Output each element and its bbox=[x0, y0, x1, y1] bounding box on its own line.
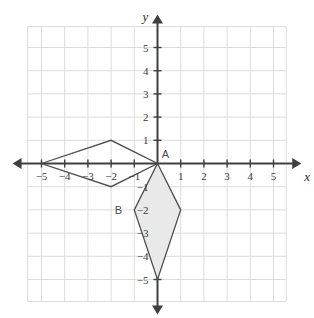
y-tick-label: 4 bbox=[143, 65, 149, 77]
y-tick-label: −5 bbox=[137, 274, 149, 286]
y-tick-label: −2 bbox=[137, 204, 149, 216]
x-axis-arrow-right bbox=[292, 158, 301, 169]
y-tick-label: −1 bbox=[137, 181, 149, 193]
y-tick-label: 2 bbox=[143, 111, 149, 123]
x-tick-label: −4 bbox=[59, 170, 71, 182]
y-axis-arrow-top bbox=[152, 15, 163, 24]
y-tick-label: 1 bbox=[143, 134, 149, 146]
x-tick-label: 4 bbox=[248, 170, 254, 182]
x-tick-label: −5 bbox=[36, 170, 48, 182]
y-axis-label: y bbox=[141, 9, 149, 24]
vertex-label-b: B bbox=[115, 204, 122, 216]
y-tick-label: −3 bbox=[137, 227, 149, 239]
y-axis-arrow-bottom bbox=[152, 306, 163, 315]
coordinate-plane-svg: −5−4−3−2−11234554321−1−2−3−4−5 AB xy bbox=[0, 0, 314, 318]
y-tick-label: 5 bbox=[143, 42, 149, 54]
x-tick-label: 5 bbox=[271, 170, 277, 182]
x-tick-label: 1 bbox=[178, 170, 184, 182]
x-tick-label: −2 bbox=[105, 170, 117, 182]
vertex-label-a: A bbox=[162, 148, 170, 160]
x-tick-label: −1 bbox=[128, 170, 140, 182]
x-tick-label: −3 bbox=[82, 170, 94, 182]
x-axis-arrow-left bbox=[13, 158, 22, 169]
x-tick-label: 3 bbox=[224, 170, 230, 182]
coordinate-plane-figure: −5−4−3−2−11234554321−1−2−3−4−5 AB xy bbox=[0, 0, 314, 318]
x-tick-label: 2 bbox=[201, 170, 207, 182]
x-axis-label: x bbox=[303, 169, 310, 184]
y-tick-label: 3 bbox=[143, 88, 149, 100]
y-tick-label: −4 bbox=[137, 250, 149, 262]
